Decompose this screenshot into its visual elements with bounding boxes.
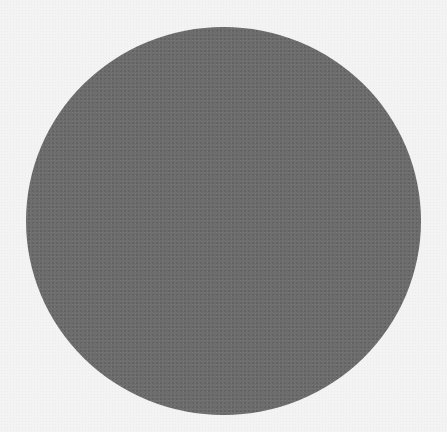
background-canvas — [0, 0, 447, 432]
gray-circle — [26, 27, 421, 415]
